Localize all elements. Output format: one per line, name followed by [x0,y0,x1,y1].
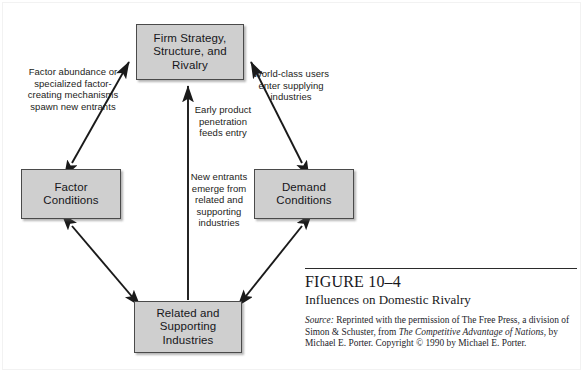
figure-number: FIGURE 10–4 [305,273,577,291]
annotation-early-product-penetration: Early product penetration feeds entry [181,104,265,139]
node-factor-conditions-label: Factor Conditions [43,181,98,208]
annotation-new-entrants-emerge: New entrants emerge from related and sup… [183,171,255,229]
node-firm-strategy-label: Firm Strategy, Structure, and Rivalry [153,32,227,73]
caption-divider-rule [305,268,577,269]
node-related-supporting-industries-label: Related and Supporting Industries [156,307,219,348]
figure-title: Influences on Domestic Rivalry [305,292,577,308]
figure-page: Firm Strategy --> Firm Strategy --> Rela… [0,0,585,374]
arrow-factor-related [72,226,140,306]
node-demand-conditions-label: Demand Conditions [276,181,331,208]
annotation-factor-abundance: Factor abundance or specialized factor- … [12,66,134,112]
node-related-supporting-industries[interactable]: Related and Supporting Industries [134,301,242,353]
node-firm-strategy[interactable]: Firm Strategy, Structure, and Rivalry [136,24,244,80]
annotation-world-class-users: World-class users enter supplying indust… [236,68,346,103]
node-demand-conditions[interactable]: Demand Conditions [254,169,354,219]
source-label: Source: [305,315,334,325]
figure-source-note: Source: Reprinted with the permission of… [305,315,577,350]
node-factor-conditions[interactable]: Factor Conditions [21,169,121,219]
figure-caption-block: FIGURE 10–4 Influences on Domestic Rival… [305,268,577,350]
source-book-title: The Competitive Advantage of Nations [399,327,544,337]
arrow-demand-related [238,226,302,306]
